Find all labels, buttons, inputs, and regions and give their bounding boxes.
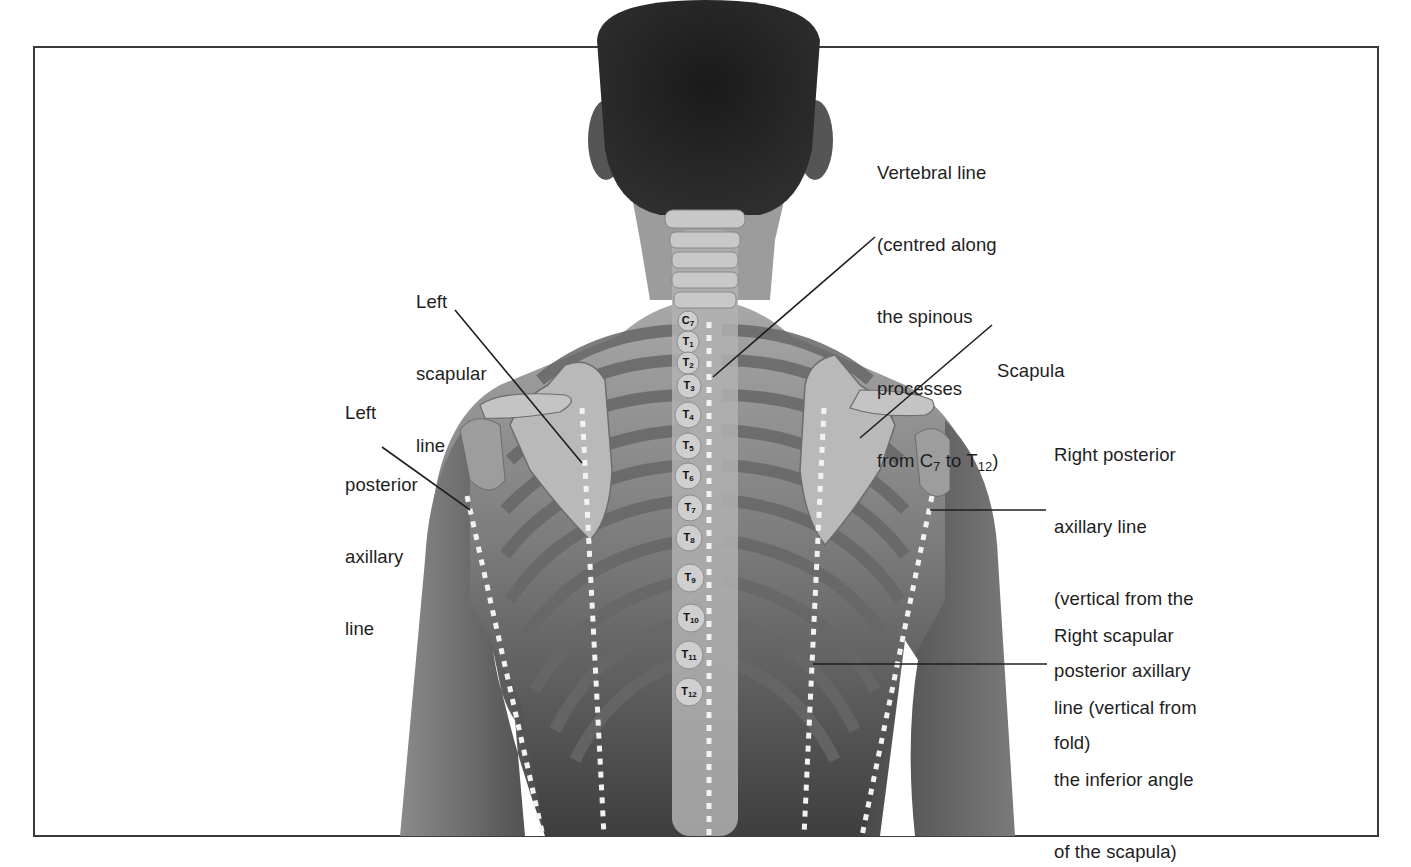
vertebra-label: T3 (683, 379, 694, 393)
label-left-scapular-line: Left scapular line (416, 242, 487, 506)
vertebra-label: T9 (684, 571, 695, 585)
vertebra-label: T5 (682, 439, 693, 453)
vertebra-label: T7 (684, 501, 695, 515)
vertebra-label: C7 (682, 314, 694, 328)
vertebra-label: T12 (681, 685, 697, 699)
label-right-scapular-line: Right scapular line (vertical from the i… (1054, 576, 1197, 867)
label-vertebral-line: Vertebral line (centred along the spinou… (877, 113, 999, 527)
vertebra-label: T10 (683, 611, 699, 625)
back-illustration (0, 0, 1411, 867)
label-left-posterior-axillary-line: Left posterior axillary line (345, 353, 418, 689)
vertebra-label: T6 (682, 469, 693, 483)
cervical-vertebrae (665, 210, 745, 308)
vertebra-label: T1 (682, 335, 693, 349)
anatomy-figure: C7T1T2T3T4T5T6T7T8T9T10T11T12 Vertebral … (0, 0, 1411, 867)
vertebra-label: T11 (681, 648, 696, 662)
vertebra-label: T8 (683, 531, 694, 545)
vertebra-label: T4 (682, 408, 693, 422)
vertebra-label: T2 (682, 356, 693, 370)
head-hair (597, 0, 820, 215)
